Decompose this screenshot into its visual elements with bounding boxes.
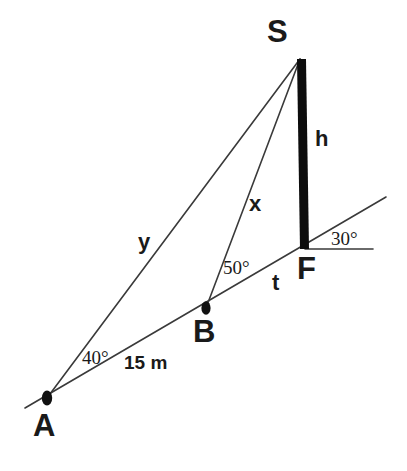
point-label-a: A [33, 410, 55, 441]
line-of-sight-b-to-s [206, 59, 300, 308]
point-marker-a [42, 390, 52, 405]
side-label-x: x [249, 193, 261, 215]
angle-label-b: 50° [223, 258, 250, 277]
distance-label-ab: 15 m [124, 353, 167, 372]
point-label-b: B [193, 316, 215, 347]
point-label-f: F [297, 253, 316, 284]
angle-label-a: 40° [82, 348, 109, 367]
tower-bar [302, 59, 305, 249]
diagram-canvas: A B F S y x h t 15 m 40° 50° 30° [0, 0, 407, 471]
side-label-y: y [138, 231, 150, 253]
side-label-h: h [315, 128, 328, 150]
point-label-s: S [267, 16, 288, 47]
angle-label-f: 30° [331, 229, 358, 248]
side-label-t: t [272, 272, 279, 294]
point-marker-b [201, 301, 210, 315]
